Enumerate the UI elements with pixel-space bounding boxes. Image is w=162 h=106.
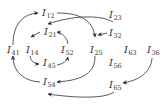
node-label: I63 — [123, 44, 137, 57]
node-i36: I36 — [146, 44, 160, 57]
node-subscript: 65 — [113, 84, 121, 92]
node-i56: I56 — [108, 57, 122, 70]
node-subscript: 32 — [113, 32, 121, 40]
node-label: I45 — [42, 57, 56, 70]
node-label: I14 — [25, 44, 39, 57]
node-label: I36 — [146, 44, 160, 57]
node-subscript: 36 — [151, 49, 159, 57]
node-i14: I14 — [25, 44, 39, 57]
arrow-i14-to-i45 — [30, 56, 39, 64]
node-subscript: 41 — [11, 49, 19, 57]
node-subscript: 23 — [113, 14, 121, 22]
node-label: I32 — [108, 27, 122, 40]
node-label: I65 — [108, 79, 122, 92]
node-subscript: 45 — [47, 62, 55, 70]
node-i25: I25 — [89, 44, 103, 57]
node-i63: I63 — [123, 44, 137, 57]
node-label: I12 — [41, 7, 55, 20]
node-label: I54 — [42, 76, 56, 89]
node-subscript: 14 — [30, 49, 38, 57]
arrow-i21-to-i14 — [31, 32, 40, 37]
node-subscript: 56 — [113, 62, 121, 70]
arrow-i25-to-i54 — [57, 56, 95, 82]
node-subscript: 25 — [94, 49, 102, 57]
arrow-i52-to-i21 — [57, 32, 68, 44]
node-subscript: 54 — [47, 81, 55, 89]
arrow-i54-to-i41 — [13, 56, 40, 82]
node-i12: I12 — [41, 7, 55, 20]
node-label: I21 — [43, 26, 57, 39]
node-label: I41 — [6, 44, 20, 57]
arrow-i23-to-i21 — [48, 17, 113, 24]
arrow-i45-to-i52 — [57, 57, 68, 65]
node-subscript: 21 — [48, 31, 56, 39]
node-subscript: 52 — [65, 49, 73, 57]
arrow-i41-to-i12 — [13, 13, 38, 45]
node-i54: I54 — [42, 76, 56, 89]
node-i52: I52 — [60, 44, 74, 57]
directed-graph-diagram: I12I23I21I32I41I14I52I25I63I36I45I56I54I… — [0, 0, 162, 106]
node-i21: I21 — [43, 26, 57, 39]
node-label: I25 — [89, 44, 103, 57]
node-i45: I45 — [42, 57, 56, 70]
node-i65: I65 — [108, 79, 122, 92]
node-label: I56 — [108, 57, 122, 70]
arrow-i36-to-i65 — [123, 58, 152, 83]
arrow-i32-to-i25 — [98, 33, 107, 35]
arrow-i65-to-i54 — [48, 92, 114, 97]
node-label: I52 — [60, 44, 74, 57]
node-i41: I41 — [6, 44, 20, 57]
node-i32: I32 — [108, 27, 122, 40]
node-subscript: 12 — [46, 12, 54, 20]
node-subscript: 63 — [128, 49, 136, 57]
